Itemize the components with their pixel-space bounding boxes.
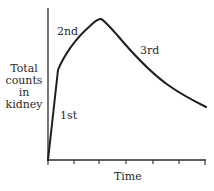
- x-axis-label: Time: [114, 170, 142, 183]
- phase-label-2nd: 2nd: [57, 25, 78, 38]
- y-axis-label: Total counts in kidney: [2, 63, 46, 111]
- renogram-curve: [48, 19, 206, 160]
- phase-label-3rd: 3rd: [140, 44, 159, 57]
- x-axis-ticks: [48, 160, 205, 165]
- phase-label-1st: 1st: [60, 109, 78, 122]
- y-axis-label-line: kidney: [2, 99, 46, 111]
